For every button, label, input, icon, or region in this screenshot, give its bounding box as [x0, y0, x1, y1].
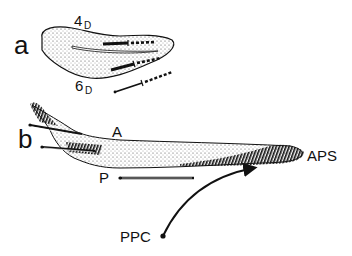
panel-a: a 4 D 6 D — [14, 12, 174, 96]
svg-text:D: D — [84, 20, 91, 31]
label-anterior: A — [112, 123, 122, 140]
label-aps: APS — [307, 147, 337, 164]
diagram: a 4 D 6 D b — [0, 0, 352, 256]
panel-b: b A P APS PPC — [18, 102, 337, 245]
implant-arrow-3 — [114, 72, 172, 93]
label-posterior: P — [99, 169, 109, 186]
hatch-top-left — [30, 102, 58, 126]
digit-label-4d: 4 D — [74, 12, 91, 31]
svg-text:4: 4 — [74, 12, 82, 29]
svg-text:6: 6 — [75, 77, 83, 94]
panel-a-label: a — [14, 30, 29, 60]
panel-b-label: b — [18, 124, 32, 154]
label-ppc: PPC — [120, 228, 151, 245]
svg-text:D: D — [85, 85, 92, 96]
implant-rod-3 — [118, 176, 194, 179]
digit-label-6d: 6 D — [75, 77, 92, 96]
